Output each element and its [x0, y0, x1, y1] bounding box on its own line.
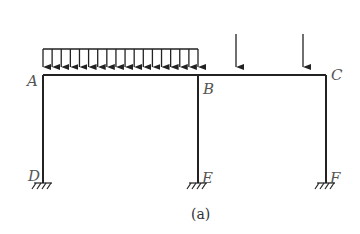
- frame-members: [43, 75, 326, 183]
- figure-caption: (a): [191, 206, 210, 222]
- node-label-d: D: [27, 167, 40, 185]
- node-label-b: B: [202, 80, 214, 98]
- hatch-mark: [197, 183, 201, 189]
- node-label-c: C: [331, 66, 343, 84]
- hatch-mark: [315, 183, 319, 189]
- node-label-f: F: [329, 169, 341, 187]
- node-label-e: E: [201, 169, 213, 187]
- fixed-supports: [32, 183, 335, 189]
- hatch-mark: [47, 183, 51, 189]
- hatch-mark: [320, 183, 324, 189]
- hatch-mark: [187, 183, 191, 189]
- hatch-mark: [325, 183, 329, 189]
- frame-diagram: A B C D E F (a): [0, 0, 360, 234]
- hatch-mark: [192, 183, 196, 189]
- hatch-mark: [42, 183, 46, 189]
- distributed-load: [43, 49, 198, 67]
- node-label-a: A: [25, 72, 38, 90]
- point-loads: [236, 34, 303, 67]
